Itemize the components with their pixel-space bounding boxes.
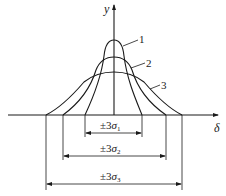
x-axis-label: δ xyxy=(214,121,220,135)
dim-label-2: ±3σ2 xyxy=(100,142,121,156)
dim-label-3: ±3σ3 xyxy=(100,170,121,184)
y-axis-label: y xyxy=(103,2,110,16)
curve-2-label: 2 xyxy=(146,57,152,69)
normal-distribution-diagram: y δ 1 2 3 ±3σ1 ±3σ2 ±3σ3 xyxy=(0,0,226,196)
dim-label-1: ±3σ1 xyxy=(100,119,121,133)
curve-3-leader xyxy=(150,85,160,89)
curve-3-label: 3 xyxy=(161,79,167,91)
curve-2-leader xyxy=(131,63,145,68)
curve-1-leader xyxy=(123,40,138,46)
curve-1-label: 1 xyxy=(139,33,145,45)
